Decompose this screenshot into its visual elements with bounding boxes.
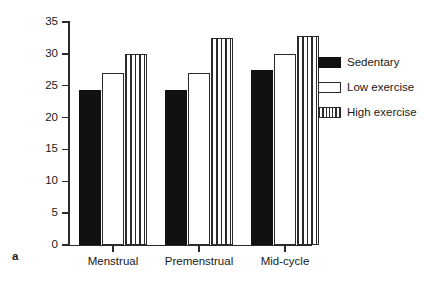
legend-item-high-exercise: High exercise	[318, 102, 422, 122]
y-tick-label: 35	[38, 16, 58, 28]
y-tick	[62, 53, 69, 55]
bar-menstrual-high-exercise	[125, 54, 147, 245]
panel-label: a	[12, 250, 18, 262]
y-tick	[62, 181, 69, 183]
x-tick	[198, 245, 200, 252]
x-tick-label: Mid-cycle	[225, 255, 345, 268]
y-tick	[62, 85, 69, 87]
legend-label-sedentary: Sedentary	[347, 56, 399, 68]
legend-swatch-high-exercise-icon	[318, 107, 341, 118]
bar-menstrual-sedentary	[79, 90, 101, 245]
plot-area	[69, 22, 312, 245]
bar-premenstrual-sedentary	[165, 90, 187, 245]
x-tick	[284, 245, 286, 252]
bar-mid-cycle-low-exercise	[274, 54, 296, 245]
figure-panel-a: Score 05101520253035 MenstrualPremenstru…	[0, 0, 424, 297]
legend-item-low-exercise: Low exercise	[318, 77, 422, 97]
y-tick-label: 5	[38, 207, 58, 219]
y-tick-label: 10	[38, 175, 58, 187]
legend-label-high-exercise: High exercise	[347, 106, 417, 118]
bar-mid-cycle-high-exercise	[297, 36, 319, 245]
legend-swatch-sedentary-icon	[318, 57, 341, 68]
legend-item-sedentary: Sedentary	[318, 52, 422, 72]
y-tick	[62, 21, 69, 23]
y-tick	[62, 149, 69, 151]
bar-menstrual-low-exercise	[102, 73, 124, 245]
y-tick	[62, 117, 69, 119]
y-tick	[62, 212, 69, 214]
y-tick	[62, 244, 69, 246]
y-tick-label: 0	[38, 239, 58, 251]
x-tick	[112, 245, 114, 252]
bar-premenstrual-low-exercise	[188, 73, 210, 245]
legend-label-low-exercise: Low exercise	[347, 81, 414, 93]
bar-mid-cycle-sedentary	[251, 70, 273, 245]
y-tick-label: 20	[38, 112, 58, 124]
y-tick-label: 30	[38, 48, 58, 60]
bar-premenstrual-high-exercise	[211, 38, 233, 245]
y-tick-label: 25	[38, 80, 58, 92]
y-tick-label: 15	[38, 143, 58, 155]
legend-swatch-low-exercise-icon	[318, 82, 341, 93]
legend: Sedentary Low exercise High exercise	[318, 52, 422, 127]
